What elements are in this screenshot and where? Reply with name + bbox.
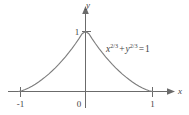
plot-canvas: x y -1 1 0 1: [0, 0, 189, 115]
equation-term2-exponent: 2/3: [130, 42, 138, 49]
astroid-figure: x y -1 1 0 1 x2/3+y2/3=1: [0, 0, 189, 115]
x-axis-label: x: [177, 86, 182, 96]
origin-label: 0: [77, 99, 82, 109]
x-axis-arrowhead: [167, 88, 175, 95]
equation-right-hand-side: 1: [145, 44, 150, 54]
y-axis-label: y: [85, 0, 90, 10]
x-tick-label-minus-one: -1: [17, 99, 25, 109]
equation-term1-exponent: 2/3: [110, 42, 118, 49]
y-tick-label-one: 1: [75, 27, 80, 37]
equation-plus-operator: +: [118, 44, 125, 54]
equation-annotation: x2/3+y2/3=1: [106, 45, 150, 55]
equation-equals-operator: =: [138, 44, 145, 54]
x-tick-label-plus-one: 1: [150, 99, 155, 109]
